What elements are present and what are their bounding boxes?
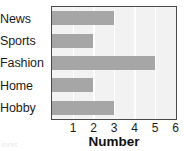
x-tick-label-5: 5 [152, 121, 159, 135]
category-label-sports: Sports [0, 35, 36, 48]
bar-sports[interactable] [52, 34, 93, 48]
x-axis-title: Number [51, 134, 177, 150]
x-tick-label-3: 3 [111, 121, 118, 135]
bar-news[interactable] [52, 11, 114, 25]
bar-home[interactable] [52, 78, 93, 92]
category-label-hobby: Hobby [0, 102, 36, 115]
category-label-fashion: Fashion [0, 57, 44, 70]
x-tick-label-1: 1 [70, 121, 77, 135]
category-axis-labels: News Sports Fashion Home Hobby [0, 8, 50, 120]
plot-area [51, 6, 177, 120]
table-row [52, 34, 176, 48]
cropped-text-fragment: ings [1, 140, 39, 147]
table-row [52, 11, 176, 25]
bar-fashion[interactable] [52, 56, 155, 70]
bar-hobby[interactable] [52, 101, 114, 115]
x-tick-label-2: 2 [90, 121, 97, 135]
table-row [52, 78, 176, 92]
table-row [52, 101, 176, 115]
table-row [52, 56, 176, 70]
category-label-home: Home [0, 80, 33, 93]
value-axis-ticks: 123456 [51, 121, 177, 135]
x-tick-label-6: 6 [172, 121, 179, 135]
x-tick-label-4: 4 [131, 121, 138, 135]
bar-chart-figure: News Sports Fashion Home Hobby 123456 Nu… [0, 0, 184, 151]
category-label-news: News [0, 13, 31, 26]
bar-series [52, 7, 176, 119]
